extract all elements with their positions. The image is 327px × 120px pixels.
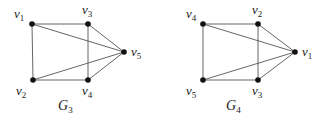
edge-v5-v1 [203, 52, 295, 80]
graph-diagram: v1v3v5v2v4G3 v4v2v1v5v3G4 [0, 0, 327, 120]
vertex-label-v4: v4 [186, 6, 197, 23]
vertex-v2 [255, 21, 261, 27]
vertex-label-v5: v5 [186, 83, 197, 100]
vertex-v3 [255, 77, 261, 83]
vertex-v2 [30, 77, 36, 83]
vertex-label-v4: v4 [82, 83, 93, 100]
vertex-v5 [200, 77, 206, 83]
vertex-label-v3: v3 [252, 83, 263, 100]
edge-v3-v5 [88, 24, 124, 52]
vertex-v1 [29, 21, 35, 27]
graph-title-g3: G3 [58, 98, 73, 115]
edge-v2-v1 [258, 24, 295, 52]
edge-v4-v5 [88, 52, 124, 80]
vertex-label-v2: v2 [252, 2, 262, 19]
vertex-v1 [292, 49, 298, 55]
vertex-label-v2: v2 [16, 83, 26, 100]
vertex-v3 [85, 21, 91, 27]
vertex-label-v3: v3 [82, 2, 93, 19]
vertex-label-v1: v1 [14, 6, 24, 23]
vertex-v4 [85, 77, 91, 83]
graph-g3: v1v3v5v2v4G3 [14, 2, 142, 115]
edge-v1-v2 [32, 24, 33, 80]
vertex-v4 [200, 21, 206, 27]
edge-v4-v1 [203, 24, 295, 52]
edge-v3-v1 [258, 52, 295, 80]
edge-v1-v5 [32, 24, 124, 52]
vertex-label-v5: v5 [131, 44, 142, 61]
vertex-v5 [121, 49, 127, 55]
vertex-label-v1: v1 [302, 44, 312, 61]
graph-g4: v4v2v1v5v3G4 [186, 2, 312, 115]
edge-v2-v5 [33, 52, 124, 80]
graph-title-g4: G4 [226, 98, 241, 115]
